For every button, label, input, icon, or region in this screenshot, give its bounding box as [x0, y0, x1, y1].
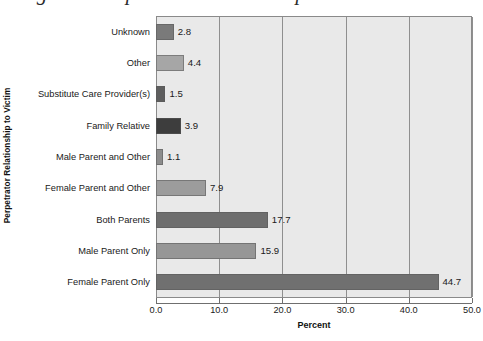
x-axis-tick	[472, 298, 473, 303]
bar[interactable]	[156, 86, 165, 102]
x-axis-tick-label: 50.0	[463, 305, 481, 315]
y-axis-tick-label: Substitute Care Provider(s)	[38, 87, 150, 101]
y-axis-tick-label: Family Relative	[86, 119, 150, 133]
bar[interactable]	[156, 55, 184, 71]
x-axis-tick	[156, 298, 157, 303]
y-axis-tick-label: Both Parents	[96, 213, 150, 227]
bar-row: 17.7	[156, 204, 472, 235]
y-axis-tick-label: Unknown	[111, 25, 150, 39]
bar[interactable]	[156, 274, 439, 290]
bar[interactable]	[156, 118, 181, 134]
bar-row: 4.4	[156, 47, 472, 78]
x-axis-tick-label: 30.0	[337, 305, 355, 315]
x-axis-tick	[219, 298, 220, 303]
x-axis-line	[156, 303, 472, 304]
bar-value-label: 17.7	[272, 212, 291, 228]
bar-value-label: 1.5	[169, 86, 182, 102]
bar-value-label: 4.4	[188, 55, 201, 71]
x-axis-tick-label: 10.0	[210, 305, 228, 315]
y-axis-tick-label: Male Parent and Other	[56, 150, 150, 164]
x-axis-tick-label: 20.0	[273, 305, 291, 315]
bar-value-label: 1.1	[167, 149, 180, 165]
y-axis-tick-label: Other	[127, 56, 150, 70]
x-axis-tick-labels: 0.010.020.030.040.050.0	[0, 305, 483, 319]
bar[interactable]	[156, 212, 268, 228]
bar-row: 15.9	[156, 235, 472, 266]
bar[interactable]	[156, 180, 206, 196]
y-axis-title: Perpetrator Relationship to Victim	[0, 14, 16, 296]
bars-layer: 2.84.41.53.91.17.917.715.944.7	[156, 16, 472, 298]
x-axis-tick	[346, 298, 347, 303]
x-axis-tick-label: 0.0	[150, 305, 163, 315]
y-axis-tick-label: Male Parent Only	[78, 244, 150, 258]
y-axis-title-text: Perpetrator Relationship to Victim	[4, 87, 13, 223]
bar-row: 2.8	[156, 16, 472, 47]
bar-value-label: 7.9	[210, 180, 223, 196]
x-axis-tick-label: 40.0	[400, 305, 418, 315]
bar-row: 1.5	[156, 79, 472, 110]
bar[interactable]	[156, 24, 174, 40]
bar[interactable]	[156, 149, 163, 165]
y-axis-tick-labels: UnknownOtherSubstitute Care Provider(s)F…	[16, 16, 154, 298]
bar-row: 3.9	[156, 110, 472, 141]
gridline	[472, 17, 473, 297]
bar-row: 7.9	[156, 173, 472, 204]
x-axis-tick	[282, 298, 283, 303]
bar-value-label: 15.9	[260, 243, 279, 259]
x-axis-tick	[409, 298, 410, 303]
x-axis-title: Percent	[156, 320, 472, 330]
bar-chart: Perpetrator Relationship to Victim Unkno…	[0, 0, 483, 341]
bar-row: 44.7	[156, 267, 472, 298]
bar-row: 1.1	[156, 141, 472, 172]
y-axis-tick-label: Female Parent and Other	[45, 181, 150, 195]
bar-value-label: 3.9	[185, 118, 198, 134]
y-axis-tick-label: Female Parent Only	[67, 275, 150, 289]
bar-value-label: 44.7	[443, 274, 462, 290]
bar[interactable]	[156, 243, 256, 259]
bar-value-label: 2.8	[178, 24, 191, 40]
